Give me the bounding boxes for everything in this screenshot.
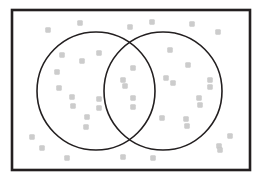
element-marker [160,116,165,121]
element-marker [198,103,203,108]
element-marker [151,156,156,161]
element-marker [197,96,202,101]
element-marker [97,51,102,56]
element-marker [208,78,213,83]
element-marker [171,81,176,86]
element-marker [150,20,155,25]
element-marker [60,53,65,58]
element-marker [121,155,126,160]
element-marker [184,117,189,122]
element-marker [78,21,83,26]
element-marker [185,124,190,129]
element-marker [65,156,70,161]
element-marker [97,106,102,111]
venn-diagram-figure [0,0,262,181]
element-marker [57,86,62,91]
element-marker [168,48,173,53]
element-marker [131,105,136,110]
element-marker [97,97,102,102]
element-marker [131,96,136,101]
element-marker [40,146,45,151]
element-marker [71,104,76,109]
element-marker [131,66,136,71]
element-marker [30,135,35,140]
element-marker [121,78,126,83]
element-marker [84,125,89,130]
element-marker [70,95,75,100]
element-marker [85,115,90,120]
element-marker [46,28,51,33]
element-marker [128,25,133,30]
element-marker [123,84,128,89]
element-marker [55,70,60,75]
element-marker [208,85,213,90]
element-marker [190,22,195,27]
element-marker [218,148,223,153]
element-marker [216,30,221,35]
element-marker [186,63,191,68]
element-marker [80,59,85,64]
element-marker [164,76,169,81]
element-marker [228,134,233,139]
venn-diagram-canvas [0,0,262,181]
